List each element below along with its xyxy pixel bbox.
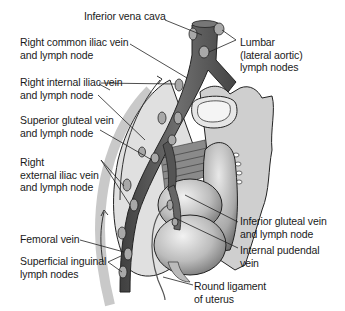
label-superior-gluteal-vein: Superior gluteal vein and lymph node	[20, 114, 114, 139]
label-inferior-vena-cava: Inferior vena cava	[84, 10, 166, 23]
label-internal-pudendal-vein: Internal pudendal vein	[240, 244, 319, 269]
label-inferior-gluteal-vein: Inferior gluteal vein and lymph node	[240, 215, 327, 240]
label-right-external-iliac-vein: Right external iliac vein and lymph node	[20, 156, 99, 194]
label-superficial-inguinal-lymph-nodes: Superficial inguinal lymph nodes	[20, 255, 106, 280]
label-round-ligament-of-uterus: Round ligament of uterus	[194, 280, 266, 305]
label-right-common-iliac-vein: Right common iliac vein and lymph node	[20, 36, 129, 61]
label-lumbar-lymph-nodes: Lumbar (lateral aortic) lymph nodes	[240, 36, 303, 74]
label-right-internal-iliac-vein: Right internal iliac vein and lymph node	[20, 76, 123, 101]
anatomy-figure: Inferior vena cava Right common iliac ve…	[0, 0, 345, 311]
label-femoral-vein: Femoral vein	[20, 233, 80, 246]
